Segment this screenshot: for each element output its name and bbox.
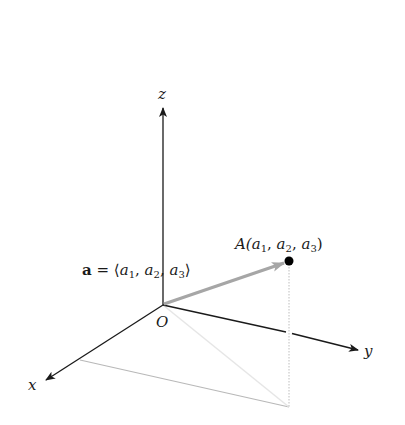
projection-xplane-line (80, 360, 289, 407)
x-axis-label: x (28, 376, 37, 394)
vector-a-label: a = ⟨a1, a2, a3⟩ (82, 261, 191, 280)
z-axis-label: z (157, 85, 166, 103)
projection-diagonal-line (163, 305, 289, 407)
y-axis-label: y (363, 342, 373, 360)
y-axis-segment-1 (163, 305, 286, 332)
diagram-svg: z y x O A(a1, a2, a3) a = ⟨a1, a2, a3⟩ (0, 0, 405, 425)
position-vector-diagram: z y x O A(a1, a2, a3) a = ⟨a1, a2, a3⟩ (0, 0, 405, 425)
y-axis-segment-2 (292, 334, 358, 351)
x-axis (46, 305, 163, 380)
origin-label: O (156, 313, 168, 331)
point-a-dot (285, 257, 294, 266)
point-a-label: A(a1, a2, a3) (233, 235, 323, 254)
